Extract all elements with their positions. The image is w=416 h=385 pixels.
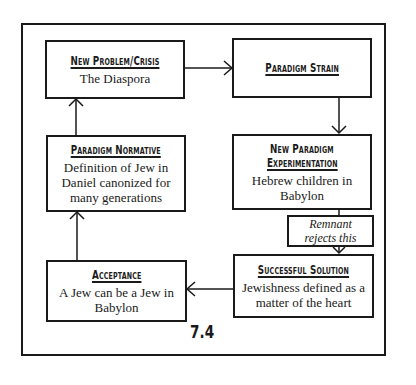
node-new-paradigm-experimentation: New Paradigm Experimentation Hebrew chil… xyxy=(232,134,372,210)
node-body: The Diaspora xyxy=(80,71,150,86)
node-body-line1: Definition of Jew in xyxy=(64,160,168,175)
node-title: Paradigm Strain xyxy=(265,61,339,75)
node-title: New Problem/Crisis xyxy=(71,54,160,68)
node-body-line2: Daniel canonized for xyxy=(61,175,170,190)
node-remnant-rejects: Remnant rejects this xyxy=(287,215,374,247)
node-title-line2: Experimentation xyxy=(267,156,338,170)
node-body-line1: A Jew can be a Jew in xyxy=(59,285,174,300)
figure-label: 7.4 xyxy=(190,322,214,342)
node-body-line3: many generations xyxy=(70,190,162,205)
node-body-line2: matter of the heart xyxy=(256,295,352,310)
node-successful-solution: Successful Solution Jewishness defined a… xyxy=(233,254,374,318)
node-paradigm-normative: Paradigm Normative Definition of Jew in … xyxy=(46,135,186,212)
node-title-line1: New Paradigm xyxy=(270,142,334,156)
node-title: Successful Solution xyxy=(258,263,349,277)
node-body-line1: Jewishness defined as a xyxy=(242,280,365,295)
node-new-problem-crisis: New Problem/Crisis The Diaspora xyxy=(45,40,185,99)
node-title: Paradigm Normative xyxy=(71,143,161,157)
node-title: Acceptance xyxy=(92,268,141,282)
node-paradigm-strain: Paradigm Strain xyxy=(232,38,372,98)
remnant-line2: rejects this xyxy=(305,231,357,245)
remnant-line1: Remnant xyxy=(309,217,352,231)
node-acceptance: Acceptance A Jew can be a Jew in Babylon xyxy=(46,260,187,322)
node-body: Hebrew children in Babylon xyxy=(234,173,370,203)
node-body-line2: Babylon xyxy=(94,300,138,315)
